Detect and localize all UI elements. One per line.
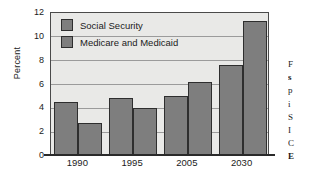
legend-swatch-icon <box>61 19 73 31</box>
y-axis-tick-label: 8 <box>39 55 44 65</box>
y-axis-zero-tick <box>44 154 50 156</box>
bar <box>243 21 267 155</box>
x-axis-tick-labels: 1990199520052030 <box>50 157 269 175</box>
y-axis-tick-label: 10 <box>34 31 44 41</box>
x-axis-tick-label: 1995 <box>122 157 143 168</box>
x-axis-tick-label: 2030 <box>231 157 252 168</box>
caption-line: I <box>288 126 309 135</box>
y-axis-tick-label: 12 <box>34 7 44 17</box>
caption-line: p <box>288 86 309 95</box>
y-axis-tick-label: 6 <box>39 79 44 89</box>
legend: Social Security Medicare and Medicaid <box>61 19 178 48</box>
legend-item-medicare-medicaid: Medicare and Medicaid <box>61 36 178 48</box>
caption-line: s <box>288 73 309 82</box>
x-axis-tick-label: 1990 <box>67 157 88 168</box>
y-axis-tick-label: 2 <box>39 126 44 136</box>
caption-line: F <box>288 60 309 69</box>
gridline <box>51 60 268 61</box>
caption-line: i <box>288 100 309 109</box>
caption-line: C <box>288 139 309 148</box>
y-axis-tick-labels: 024681012 <box>22 0 44 177</box>
bar <box>133 108 157 155</box>
y-axis-label: Percent <box>12 28 22 98</box>
x-axis-tick-label: 2005 <box>176 157 197 168</box>
plot-area: Social Security Medicare and Medicaid <box>50 12 269 155</box>
bar <box>219 65 243 155</box>
x-axis-line <box>44 154 275 156</box>
legend-item-social-security: Social Security <box>61 19 178 31</box>
caption-line: E <box>288 152 309 161</box>
bar-chart-figure: Percent 024681012 Social Security Medica… <box>0 0 309 177</box>
bar <box>109 98 133 155</box>
caption-line: S <box>288 113 309 122</box>
bar <box>164 96 188 155</box>
legend-label: Social Security <box>80 20 143 31</box>
bar <box>188 82 212 155</box>
caption-fragment: FspiSICE <box>288 60 309 161</box>
bar <box>54 102 78 155</box>
y-axis-tick-label: 4 <box>39 102 44 112</box>
legend-swatch-icon <box>61 36 73 48</box>
bar <box>78 123 102 155</box>
legend-label: Medicare and Medicaid <box>80 37 178 48</box>
